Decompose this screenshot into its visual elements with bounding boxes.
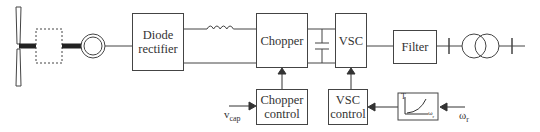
diode-rectifier-label: Diode rectifier <box>133 28 183 56</box>
vsc-control-block: VSC control <box>328 89 368 125</box>
torque-axis-label: T <box>401 92 406 101</box>
omega-r-input-label: ωr <box>459 109 469 124</box>
chopper-control-block: Chopper control <box>256 89 308 125</box>
vcap-input-label: vcap <box>224 108 241 123</box>
arrow-left-icon <box>440 103 447 111</box>
generator-icon <box>81 34 105 58</box>
vsc-label: VSC <box>339 34 363 48</box>
dc-link-capacitor-icon <box>315 29 329 63</box>
arrow-up-icon <box>278 68 286 74</box>
transformer-icon <box>462 34 499 58</box>
arrow-left-icon <box>368 103 375 111</box>
chopper-control-label: Chopper control <box>257 93 307 121</box>
speed-axis-label: ωr <box>428 109 434 119</box>
chopper-label: Chopper <box>260 34 303 48</box>
vsc-block: VSC <box>335 13 367 68</box>
inductor-icon <box>207 26 233 29</box>
filter-block: Filter <box>393 30 437 64</box>
arrow-right-icon <box>249 102 256 110</box>
vsc-control-label: VSC control <box>329 93 367 121</box>
gearbox-icon <box>36 29 62 63</box>
arrow-up-icon <box>347 68 355 74</box>
diode-rectifier-block: Diode rectifier <box>132 13 184 71</box>
filter-label: Filter <box>401 40 428 54</box>
chopper-block: Chopper <box>256 13 308 68</box>
